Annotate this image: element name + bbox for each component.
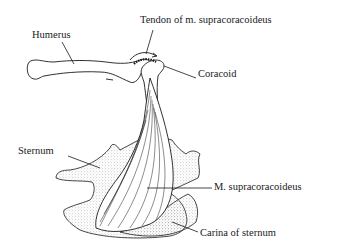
humerus-bone xyxy=(27,59,152,82)
label-carina: Carina of sternum xyxy=(200,228,276,239)
label-muscle: M. supracoracoideus xyxy=(214,182,301,193)
label-humerus: Humerus xyxy=(32,30,71,41)
label-coracoid: Coracoid xyxy=(198,69,237,80)
label-sternum: Sternum xyxy=(18,146,54,157)
label-tendon: Tendon of m. supracoracoideus xyxy=(140,15,272,26)
